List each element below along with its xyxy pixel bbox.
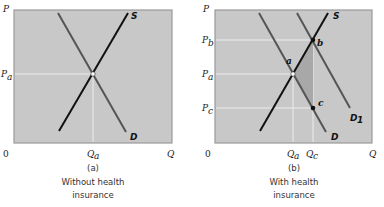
svg-text:1: 1 xyxy=(357,115,363,125)
price-a-label-b: P a xyxy=(201,69,213,82)
qty-c-label: Q c xyxy=(306,149,318,161)
qty-a-label-b: Q a xyxy=(287,149,299,161)
point-c xyxy=(311,106,316,111)
svg-text:c: c xyxy=(313,151,318,161)
y-axis-label-a: P xyxy=(2,4,10,14)
price-c-label: P c xyxy=(201,103,213,116)
demand-label-b: D xyxy=(331,132,339,142)
point-a xyxy=(291,72,295,76)
price-b-label: P b xyxy=(201,35,214,48)
svg-text:a: a xyxy=(7,72,12,82)
panel-a: S D P 0 Q P a Q a (a) Without health ins… xyxy=(0,4,175,200)
caption-line2-b: insurance xyxy=(273,190,315,200)
origin-label-a: 0 xyxy=(3,149,9,159)
point-a-label: a xyxy=(286,56,292,66)
svg-text:a: a xyxy=(94,151,99,161)
supply-label-b: S xyxy=(333,11,339,21)
plot-area-b xyxy=(215,10,372,143)
point-b-label: b xyxy=(317,38,323,48)
x-axis-label-a: Q xyxy=(167,149,175,159)
y-axis-label-b: P xyxy=(202,4,210,14)
caption-letter-b: (b) xyxy=(288,163,300,173)
point-c-label: c xyxy=(318,98,324,108)
point-b xyxy=(311,38,316,43)
origin-label-b: 0 xyxy=(205,149,211,159)
caption-line1-a: Without health xyxy=(62,177,125,187)
health-insurance-diagram: S D P 0 Q P a Q a (a) Without health ins… xyxy=(0,0,384,207)
caption-line1-b: With health xyxy=(270,177,319,187)
supply-label-a: S xyxy=(131,11,137,21)
qty-a-label: Q a xyxy=(87,149,99,161)
demand-label-a: D xyxy=(130,132,138,142)
caption-letter-a: (a) xyxy=(87,163,99,173)
svg-text:a: a xyxy=(294,151,299,161)
equilibrium-point-a xyxy=(91,72,95,76)
svg-text:c: c xyxy=(208,106,213,116)
svg-text:b: b xyxy=(208,38,214,48)
panel-b: a b c S D D 1 P 0 Q P b P a P c Q a Q c xyxy=(201,4,377,200)
price-a-label: P a xyxy=(0,69,12,82)
svg-text:a: a xyxy=(208,72,213,82)
x-axis-label-b: Q xyxy=(369,149,377,159)
caption-line2-a: insurance xyxy=(72,190,114,200)
